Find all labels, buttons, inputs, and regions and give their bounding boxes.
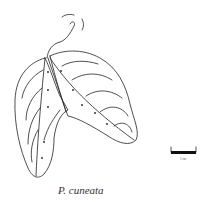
leaf-illustration <box>0 0 209 205</box>
figure-caption: P. cuneata <box>0 184 209 196</box>
leaf-dots <box>41 70 108 159</box>
tendril-curl-1 <box>62 14 74 17</box>
scale-bar <box>171 151 196 154</box>
right-leaflet-outline <box>50 51 137 143</box>
scale-bar-label: 1 cm <box>170 157 196 161</box>
tendril-curl-2 <box>82 19 84 30</box>
left-leaflet-outline <box>15 58 68 177</box>
left-midrib <box>36 58 45 176</box>
right-midrib <box>50 58 134 140</box>
center-rib <box>48 58 66 112</box>
